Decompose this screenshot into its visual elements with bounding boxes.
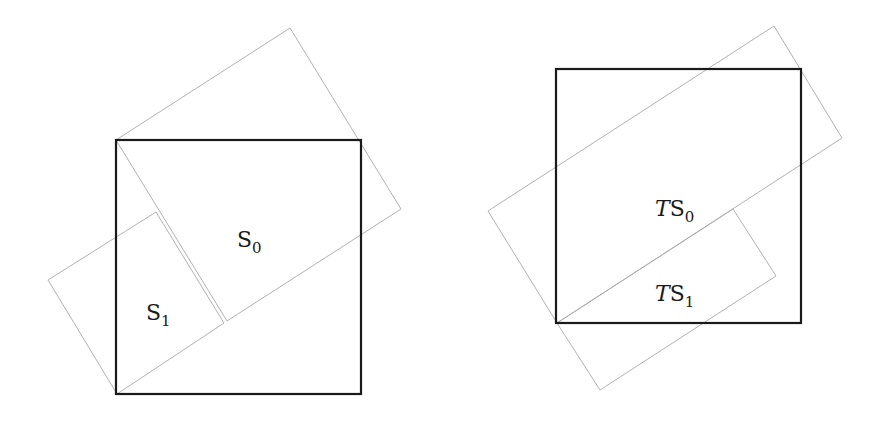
label-ts1: TS1 (655, 281, 694, 311)
label-s0: S0 (237, 227, 262, 257)
label-ts0: TS0 (655, 196, 694, 226)
label-s1: S1 (146, 300, 171, 330)
left-panel: S0 S1 (48, 28, 401, 394)
rotated-rect-s1 (48, 212, 224, 394)
rotated-rect-s0 (116, 28, 401, 321)
right-panel: TS0 TS1 (488, 26, 842, 390)
diagram-canvas: S0 S1 TS0 TS1 (0, 0, 880, 422)
rotated-rect-ts0 (488, 26, 842, 323)
left-square (116, 140, 361, 394)
